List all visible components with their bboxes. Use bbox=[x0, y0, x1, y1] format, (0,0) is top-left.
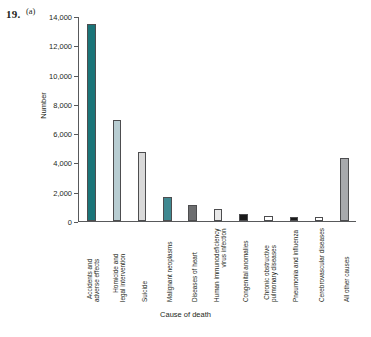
bar bbox=[239, 214, 248, 221]
bar bbox=[188, 205, 197, 221]
x-axis-category-label-line: All other causes bbox=[343, 257, 350, 302]
x-axis-category-label-line: Cerebrovascular diseases bbox=[318, 228, 325, 302]
x-axis-category-label-line: Malignant neoplasms bbox=[166, 242, 173, 302]
y-axis-tick-mark bbox=[74, 193, 78, 194]
x-axis-line bbox=[78, 221, 356, 222]
bar bbox=[138, 152, 147, 221]
y-axis-tick-label: 12,000 bbox=[49, 42, 72, 51]
bar-series bbox=[79, 17, 356, 221]
x-axis-category-label-line: pulmonary diseases bbox=[271, 245, 278, 302]
x-axis-category-labels: Accidents andadverse effectsHomicide and… bbox=[78, 224, 356, 306]
y-axis-tick-mark bbox=[74, 134, 78, 135]
bar bbox=[290, 217, 299, 221]
plot-area: 02,0004,0006,0008,00010,00012,00014,000 bbox=[78, 17, 356, 222]
y-axis-title: Number bbox=[39, 92, 48, 119]
y-axis-tick-label: 2,000 bbox=[53, 188, 72, 197]
y-axis-tick-label: 8,000 bbox=[53, 100, 72, 109]
y-axis-tick-label: 10,000 bbox=[49, 71, 72, 80]
x-axis-category-label-line: Suicide bbox=[141, 281, 148, 302]
bar bbox=[264, 216, 273, 221]
y-axis-tick-mark bbox=[74, 17, 78, 18]
y-axis-tick-mark bbox=[74, 105, 78, 106]
bar bbox=[113, 120, 122, 221]
x-axis-title: Cause of death bbox=[0, 310, 371, 319]
y-axis-tick-label: 14,000 bbox=[49, 13, 72, 22]
y-axis-tick-label: 6,000 bbox=[53, 130, 72, 139]
x-axis-category-label-line: Diseases of heart bbox=[191, 252, 198, 302]
y-axis-tick-label: 0 bbox=[68, 218, 72, 227]
x-axis-category-label-line: Congenital anomalies bbox=[242, 241, 249, 302]
y-axis-tick-mark bbox=[74, 46, 78, 47]
bar bbox=[315, 217, 324, 221]
x-axis-category-label-line: Human immunodeficiency bbox=[213, 228, 220, 302]
figure-number: 19. bbox=[6, 8, 20, 20]
figure-part-label: (a) bbox=[26, 6, 35, 16]
bar bbox=[87, 24, 96, 221]
x-axis-category-label-line: Homicide and bbox=[112, 254, 119, 302]
x-axis-category-label-line: Pneumonia and influenza bbox=[292, 230, 299, 302]
x-axis-category-label-line: adverse effects bbox=[94, 259, 101, 302]
x-axis-category-label-line: virus infection bbox=[220, 228, 227, 302]
bar bbox=[340, 158, 349, 221]
y-axis-tick-mark bbox=[74, 163, 78, 164]
y-axis-tick-mark bbox=[74, 76, 78, 77]
y-axis-tick-label: 4,000 bbox=[53, 159, 72, 168]
bar bbox=[214, 209, 223, 221]
x-axis-category-label-line: legal intervention bbox=[119, 254, 126, 302]
bar bbox=[163, 197, 172, 221]
y-axis-tick-mark bbox=[74, 222, 78, 223]
